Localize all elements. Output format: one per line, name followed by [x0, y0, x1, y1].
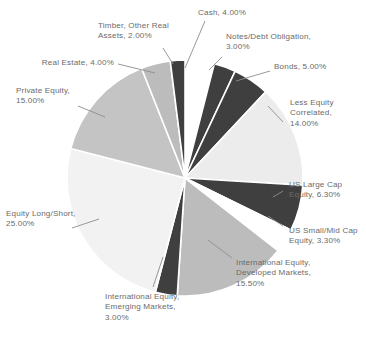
pie-label-less-equity-correlated: Less Equity Correlated, 14.00% — [290, 98, 364, 129]
pie-label-notes-debt: Notes/Debt Obligation, 3.00% — [226, 32, 356, 53]
pie-label-private-equity: Private Equity, 15.00% — [16, 86, 100, 107]
pie-label-us-large-cap: US Large Cap Equity, 6.30% — [289, 180, 366, 201]
pie-label-equity-long-short: Equity Long/Short, 25.00% — [6, 209, 106, 230]
pie-label-real-estate: Real Estate, 4.00% — [14, 58, 114, 68]
pie-label-intl-emerging: International Equity, Emerging Markets, … — [105, 292, 221, 323]
pie-label-cash: Cash, 4.00% — [198, 8, 288, 18]
pie-label-bonds: Bonds, 5.00% — [274, 62, 364, 72]
pie-label-us-small-mid-cap: US Small/Mid Cap Equity, 3.30% — [289, 226, 366, 247]
pie-label-timber-other: Timber, Other Real Assets, 2.00% — [98, 21, 206, 42]
pie-chart: Cash, 4.00% Notes/Debt Obligation, 3.00%… — [0, 0, 366, 348]
pie-label-intl-developed: International Equity, Developed Markets,… — [236, 258, 346, 289]
